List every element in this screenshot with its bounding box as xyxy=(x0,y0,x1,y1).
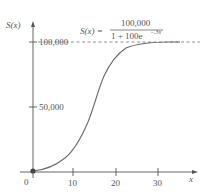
x-tick-label-10: 10 xyxy=(68,178,78,188)
formula-annotation: S(x) = 100,000 1 + 100e −.3x xyxy=(80,18,163,41)
formula-numerator: 100,000 xyxy=(121,18,151,28)
formula-lhs: S(x) = xyxy=(80,26,103,36)
y-tick-label-100000: 100,000 xyxy=(39,37,69,47)
x-axis-label: x xyxy=(188,174,193,184)
x-tick-label-30: 30 xyxy=(153,178,163,188)
y-axis-arrow-icon xyxy=(31,21,35,27)
origin-label: 0 xyxy=(24,177,29,187)
formula-exponent: −.3x xyxy=(150,29,162,35)
formula-denominator: 1 + 100e xyxy=(111,31,143,41)
x-tick-label-20: 20 xyxy=(111,178,121,188)
initial-point-marker xyxy=(30,168,35,173)
y-tick-label-50000: 50,000 xyxy=(39,102,64,112)
logistic-chart: S(x) 100,000 50,000 0 10 20 30 x S(x) = … xyxy=(0,0,204,195)
y-axis-label: S(x) xyxy=(6,20,21,30)
